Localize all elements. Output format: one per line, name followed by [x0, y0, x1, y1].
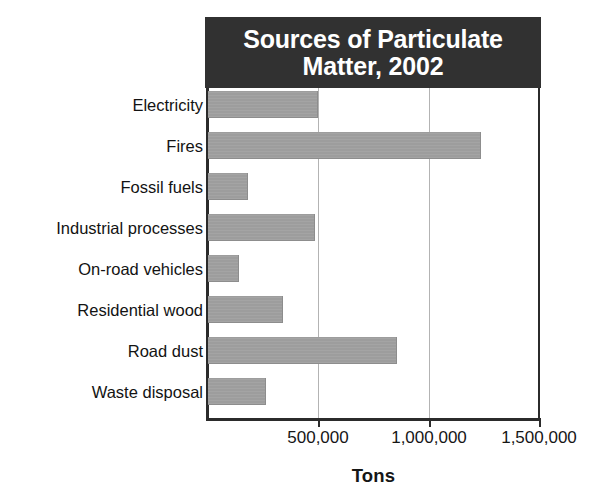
bar	[208, 91, 318, 118]
chart-title-banner: Sources of Particulate Matter, 2002	[205, 17, 541, 88]
x-axis-tick	[539, 419, 541, 427]
category-label: On-road vehicles	[0, 261, 203, 278]
x-axis-tick	[318, 419, 320, 427]
category-label: Residential wood	[0, 302, 203, 319]
bar	[208, 337, 397, 364]
chart-title: Sources of Particulate Matter, 2002	[237, 26, 509, 80]
x-axis-title: Tons	[208, 465, 539, 487]
bar	[208, 214, 315, 241]
bar	[208, 173, 248, 200]
category-label: Fossil fuels	[0, 179, 203, 196]
category-label: Waste disposal	[0, 384, 203, 401]
x-tick-label: 1,500,000	[474, 428, 598, 448]
bar	[208, 378, 266, 405]
bar	[208, 132, 481, 159]
category-label: Fires	[0, 138, 203, 155]
plot-right-border	[538, 88, 540, 421]
bar	[208, 296, 283, 323]
x-axis-tick	[429, 419, 431, 427]
category-label: Electricity	[0, 97, 203, 114]
bar-chart-figure: Sources of Particulate Matter, 2002 Elec…	[0, 0, 598, 502]
bar	[208, 255, 239, 282]
category-label: Industrial processes	[0, 220, 203, 237]
x-axis-line	[206, 418, 541, 421]
category-label: Road dust	[0, 343, 203, 360]
